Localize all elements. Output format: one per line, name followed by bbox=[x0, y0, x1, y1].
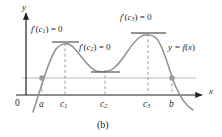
y-axis-label: y bbox=[22, 3, 26, 12]
annotation-derivative-c2: f′(c2) = 0 bbox=[79, 43, 111, 52]
annotation-c3-equals-zero: = 0 bbox=[138, 12, 152, 22]
tick-label-a: a bbox=[39, 100, 44, 110]
tick-label-c3: c3 bbox=[143, 100, 150, 110]
endpoint-marker-a bbox=[39, 75, 44, 80]
endpoint-marker-b bbox=[169, 75, 174, 80]
tick-label-c3-subscript: 3 bbox=[147, 102, 150, 109]
figure-container: y x 0 a c1 c2 c3 b f′(c1) = 0 f′(c2) = 0… bbox=[0, 0, 222, 137]
annotation-c1-equals-zero: = 0 bbox=[49, 24, 63, 34]
annotation-derivative-c1: f′(c1) = 0 bbox=[31, 25, 63, 34]
curve-label-lhs: y = f bbox=[168, 42, 185, 52]
annotation-derivative-c3: f′(c3) = 0 bbox=[120, 13, 152, 22]
curve-function-label: y = f(x) bbox=[168, 43, 195, 52]
figure-caption: (b) bbox=[97, 120, 109, 130]
annotation-c2-equals-zero: = 0 bbox=[97, 42, 111, 52]
tick-label-c2: c2 bbox=[100, 100, 107, 110]
tick-label-b: b bbox=[169, 100, 174, 110]
tick-label-c1-subscript: 1 bbox=[64, 102, 67, 109]
origin-label: 0 bbox=[15, 99, 20, 109]
tick-label-c2-subscript: 2 bbox=[104, 102, 107, 109]
graph-canvas bbox=[0, 0, 222, 137]
tick-label-c1: c1 bbox=[60, 100, 67, 110]
x-axis-label: x bbox=[209, 87, 213, 96]
curve-label-paren-close: ) bbox=[192, 42, 195, 52]
